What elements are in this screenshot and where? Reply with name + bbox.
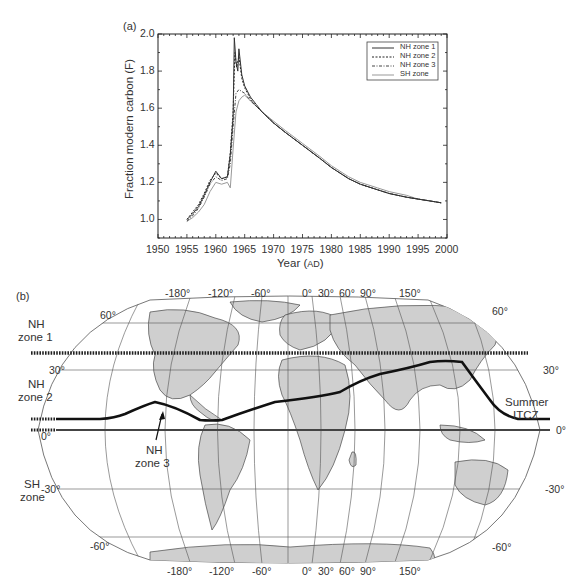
lon-top-150: 150°	[399, 287, 421, 299]
itcz-label-a: Summer	[505, 396, 548, 408]
lon-top-m60: -60°	[251, 287, 270, 299]
sh-zone-label-a: SH	[24, 478, 40, 490]
lon-top-m120: -120°	[208, 287, 233, 299]
lon-bottom-30: 30°	[318, 565, 334, 577]
lon-bottom-90: 90°	[360, 565, 376, 577]
lon-top-0: 0°	[302, 287, 312, 299]
lon-bottom-m120: -120°	[209, 565, 234, 577]
lon-top-60: 60°	[339, 287, 355, 299]
lat-left-30: 30°	[49, 364, 65, 376]
lon-top-90: 90°	[360, 287, 376, 299]
nh-zone-3-label-a: NH	[146, 444, 163, 456]
lat-left-0: 0°	[41, 430, 51, 442]
lat-left-60: 60°	[100, 309, 116, 321]
lon-bottom-m60: -60°	[252, 565, 271, 577]
lat-right-0: 0°	[556, 424, 566, 436]
lon-top-30: 30°	[318, 287, 334, 299]
nh-zone-1-label-a: NH	[28, 318, 45, 330]
sh-zone-label-b: zone	[20, 491, 45, 503]
nh-zone-2-label-a: NH	[28, 378, 45, 390]
nh-zone-1-label-b: zone 1	[18, 331, 53, 343]
lon-bottom-0: 0°	[302, 565, 312, 577]
lat-right-60: 60°	[492, 305, 508, 317]
lon-bottom-150: 150°	[399, 565, 421, 577]
lat-right-m60: -60°	[492, 541, 511, 553]
lat-right-30: 30°	[543, 364, 559, 376]
panel-b-map	[0, 0, 577, 584]
lon-bottom-60: 60°	[339, 565, 355, 577]
itcz-label-b: ITCZ	[513, 409, 539, 421]
nh-zone-2-label-b: zone 2	[18, 391, 53, 403]
lon-bottom-m180: -180°	[167, 565, 192, 577]
lat-left-m60: -60°	[90, 540, 109, 552]
nh-zone-3-label-b: zone 3	[135, 457, 170, 469]
lon-top-m180: -180°	[165, 287, 190, 299]
lat-right-m30: -30°	[545, 483, 564, 495]
